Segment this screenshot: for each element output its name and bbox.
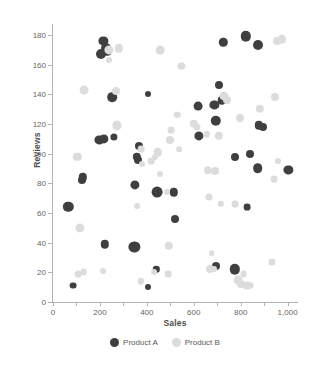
data-point[interactable]	[240, 270, 247, 277]
data-point[interactable]	[243, 204, 250, 211]
x-tick-mark	[241, 302, 242, 306]
x-tick-label: 400	[127, 308, 167, 317]
data-point[interactable]	[194, 102, 203, 111]
data-point[interactable]	[271, 93, 279, 101]
data-point[interactable]	[204, 166, 212, 174]
data-point[interactable]	[253, 164, 263, 174]
data-point[interactable]	[99, 134, 108, 143]
data-point[interactable]	[164, 189, 170, 195]
x-tick-mark	[147, 302, 148, 306]
y-tick-label: 60	[22, 208, 46, 217]
data-point[interactable]	[275, 158, 281, 164]
x-tick-label: 0	[33, 308, 73, 317]
y-tick-mark	[48, 183, 52, 184]
chart-legend: Product AProduct B	[0, 338, 330, 347]
data-point[interactable]	[259, 123, 267, 131]
data-point[interactable]	[256, 105, 264, 113]
data-point[interactable]	[73, 152, 81, 160]
data-point[interactable]	[271, 175, 278, 182]
y-tick-label: 20	[22, 268, 46, 277]
data-point[interactable]	[105, 45, 114, 54]
data-point[interactable]	[215, 81, 223, 89]
y-tick-label: 100	[22, 149, 46, 158]
x-tick-label: 800	[221, 308, 261, 317]
legend-item-product-b[interactable]: Product B	[172, 338, 220, 347]
legend-label: Product A	[123, 338, 158, 347]
data-point[interactable]	[236, 114, 244, 122]
data-point[interactable]	[177, 146, 183, 152]
data-point[interactable]	[284, 165, 293, 174]
data-point[interactable]	[80, 269, 87, 276]
data-point[interactable]	[171, 215, 179, 223]
data-point[interactable]	[114, 44, 122, 52]
data-point[interactable]	[110, 134, 117, 141]
data-point[interactable]	[246, 150, 254, 158]
data-point[interactable]	[231, 201, 238, 208]
data-point[interactable]	[106, 57, 112, 63]
data-point[interactable]	[164, 270, 171, 277]
data-point[interactable]	[148, 158, 155, 165]
data-point[interactable]	[79, 85, 88, 94]
data-point[interactable]	[157, 171, 163, 177]
data-point[interactable]	[211, 167, 219, 175]
x-axis-title: Sales	[53, 318, 297, 328]
y-tick-label: 140	[22, 90, 46, 99]
data-point[interactable]	[278, 35, 286, 43]
data-point[interactable]	[137, 278, 143, 284]
data-point[interactable]	[165, 241, 173, 249]
x-tick-mark-minor	[217, 302, 218, 306]
data-point[interactable]	[151, 269, 157, 275]
data-point[interactable]	[145, 284, 151, 290]
data-point[interactable]	[129, 242, 140, 253]
data-point[interactable]	[211, 116, 221, 126]
data-point[interactable]	[152, 187, 163, 198]
y-tick-mark	[48, 65, 52, 66]
data-point[interactable]	[247, 282, 254, 289]
data-point[interactable]	[166, 136, 174, 144]
data-point[interactable]	[269, 258, 276, 265]
data-point[interactable]	[230, 264, 240, 274]
data-point[interactable]	[130, 180, 139, 189]
legend-item-product-a[interactable]: Product A	[110, 338, 158, 347]
data-point[interactable]	[145, 91, 151, 97]
data-point[interactable]	[211, 266, 217, 272]
data-point[interactable]	[209, 250, 215, 256]
y-tick-label: 180	[22, 30, 46, 39]
data-point[interactable]	[223, 96, 231, 104]
data-point[interactable]	[134, 203, 140, 209]
y-tick-label: 0	[22, 298, 46, 307]
data-point[interactable]	[170, 188, 178, 196]
data-point[interactable]	[178, 62, 185, 69]
x-tick-label: 1,000	[268, 308, 308, 317]
data-point[interactable]	[101, 240, 109, 248]
y-tick-label: 160	[22, 60, 46, 69]
data-point[interactable]	[63, 202, 73, 212]
data-point[interactable]	[112, 87, 120, 95]
data-point[interactable]	[100, 268, 106, 274]
data-point[interactable]	[253, 40, 263, 50]
data-point[interactable]	[174, 112, 180, 118]
data-point[interactable]	[204, 131, 210, 137]
y-tick-mark	[48, 124, 52, 125]
y-tick-label: 40	[22, 238, 46, 247]
data-point[interactable]	[70, 282, 77, 289]
data-point[interactable]	[113, 121, 122, 130]
data-point[interactable]	[76, 223, 85, 232]
plot-area	[53, 26, 297, 302]
data-point[interactable]	[193, 123, 200, 130]
legend-label: Product B	[185, 338, 220, 347]
data-point[interactable]	[205, 193, 212, 200]
x-tick-label: 200	[80, 308, 120, 317]
data-point[interactable]	[138, 146, 145, 153]
y-tick-mark	[48, 243, 52, 244]
data-point[interactable]	[240, 31, 250, 41]
data-point[interactable]	[219, 38, 227, 46]
data-point[interactable]	[139, 161, 145, 167]
data-point[interactable]	[78, 176, 86, 184]
data-point[interactable]	[194, 131, 203, 140]
data-point[interactable]	[218, 201, 224, 207]
data-point[interactable]	[168, 126, 175, 133]
data-point[interactable]	[214, 132, 222, 140]
data-point[interactable]	[231, 153, 239, 161]
data-point[interactable]	[155, 45, 164, 54]
